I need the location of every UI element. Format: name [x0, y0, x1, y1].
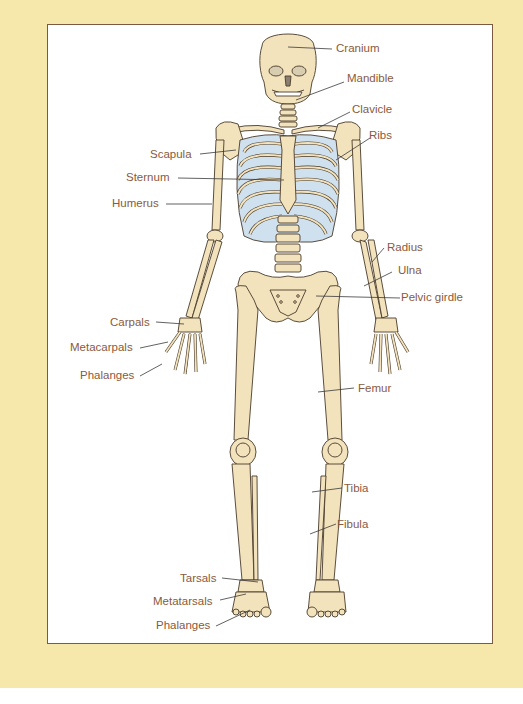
left-foot [232, 580, 271, 617]
leader-lines [140, 47, 400, 626]
right-foot [307, 580, 346, 617]
label-radius: Radius [387, 242, 423, 254]
label-pelvic-girdle: Pelvic girdle [401, 292, 463, 304]
label-carpals: Carpals [110, 317, 150, 329]
label-metatarsals: Metatarsals [153, 596, 212, 608]
label-ribs: Ribs [369, 130, 392, 142]
label-tarsals: Tarsals [180, 573, 216, 585]
left-hand [166, 318, 205, 374]
label-scapula: Scapula [150, 149, 192, 161]
label-sternum: Sternum [126, 172, 169, 184]
label-fibula: Fibula [337, 519, 368, 531]
label-femur: Femur [358, 383, 391, 395]
label-phalanges-foot: Phalanges [156, 620, 210, 632]
label-mandible: Mandible [347, 73, 394, 85]
label-phalanges-hand: Phalanges [80, 370, 134, 382]
label-cranium: Cranium [336, 43, 379, 55]
label-humerus: Humerus [112, 198, 159, 210]
cervical-spine [279, 104, 297, 127]
label-clavicle: Clavicle [352, 104, 392, 116]
label-metacarpals: Metacarpals [70, 342, 133, 354]
label-ulna: Ulna [398, 265, 422, 277]
skull [260, 34, 316, 104]
label-tibia: Tibia [344, 483, 369, 495]
right-hand [371, 318, 408, 374]
